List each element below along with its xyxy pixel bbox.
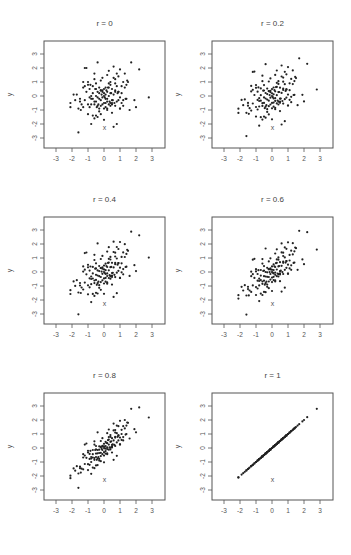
x-tick-label: -1 (85, 507, 91, 514)
y-tick-label: -2 (31, 297, 38, 303)
y-tick-label: 3 (199, 228, 206, 232)
y-tick-label: 3 (31, 228, 38, 232)
x-tick-label: 2 (134, 507, 138, 514)
y-tick-label: -2 (31, 121, 38, 127)
panel-title: r = 0 (44, 19, 165, 28)
plot-frame (212, 41, 333, 148)
x-tick-label: 1 (118, 155, 122, 162)
x-tick-label: -3 (221, 507, 227, 514)
y-axis-label: y (6, 93, 13, 97)
y-axis-label: y (174, 269, 181, 273)
y-tick-label: -2 (199, 297, 206, 303)
x-axis-label: x (212, 300, 333, 307)
y-tick-label: -1 (199, 459, 206, 465)
x-tick-label: 2 (302, 331, 306, 338)
panel-title: r = 0.6 (212, 195, 333, 204)
y-tick-label: -1 (199, 283, 206, 289)
x-tick-label: 2 (302, 155, 306, 162)
x-axis-label: x (212, 476, 333, 483)
y-tick-label: -3 (31, 311, 38, 317)
y-tick-label: 0 (31, 270, 38, 274)
y-tick-label: 1 (199, 256, 206, 260)
x-tick-label: 3 (150, 155, 154, 162)
y-tick-label: -3 (199, 135, 206, 141)
panel-title: r = 1 (212, 371, 333, 380)
x-tick-label: 0 (102, 507, 106, 514)
x-tick-label: -2 (69, 331, 75, 338)
x-tick-label: -1 (253, 331, 259, 338)
scatter-panel-4: -3-2-10123-3-2-10123r = 0.6xy (168, 176, 343, 352)
x-axis-label: x (212, 124, 333, 131)
panel-title: r = 0.2 (212, 19, 333, 28)
x-axis-label: x (44, 300, 165, 307)
x-tick-label: 0 (270, 155, 274, 162)
cut-off-caption (0, 549, 351, 555)
scatter-panel-5: -3-2-10123-3-2-10123r = 0.8xy (0, 352, 175, 528)
y-tick-label: -3 (199, 311, 206, 317)
y-tick-label: 2 (199, 418, 206, 422)
x-tick-label: -3 (53, 331, 59, 338)
x-tick-label: -2 (69, 155, 75, 162)
x-tick-label: -1 (253, 507, 259, 514)
y-tick-label: -3 (31, 135, 38, 141)
x-tick-label: -3 (221, 155, 227, 162)
x-axis-label: x (44, 476, 165, 483)
scatter-panel-6: -3-2-10123-3-2-10123r = 1xy (168, 352, 343, 528)
x-tick-label: 0 (102, 155, 106, 162)
panel-title: r = 0.8 (44, 371, 165, 380)
y-tick-label: 1 (31, 80, 38, 84)
y-tick-label: -1 (199, 107, 206, 113)
y-tick-label: -2 (199, 473, 206, 479)
x-tick-label: -3 (53, 507, 59, 514)
data-points (69, 61, 150, 133)
x-tick-label: 3 (150, 331, 154, 338)
x-tick-label: -2 (237, 155, 243, 162)
x-tick-label: 3 (150, 507, 154, 514)
y-tick-label: -1 (31, 283, 38, 289)
x-tick-label: 1 (286, 331, 290, 338)
x-tick-label: 1 (286, 507, 290, 514)
x-tick-label: -2 (237, 331, 243, 338)
y-tick-label: 3 (199, 404, 206, 408)
plot-frame (44, 217, 165, 324)
y-tick-label: 2 (31, 418, 38, 422)
y-tick-label: 2 (199, 66, 206, 70)
x-tick-label: -3 (221, 331, 227, 338)
y-tick-label: 2 (199, 242, 206, 246)
x-axis-label: x (44, 124, 165, 131)
x-tick-label: -1 (85, 155, 91, 162)
y-axis-label: y (6, 445, 13, 449)
y-axis-label: y (6, 269, 13, 273)
y-tick-label: 2 (31, 66, 38, 70)
y-axis-label: y (174, 445, 181, 449)
y-tick-label: 0 (199, 94, 206, 98)
y-tick-label: 1 (199, 80, 206, 84)
x-tick-label: 1 (118, 331, 122, 338)
y-tick-label: 1 (199, 432, 206, 436)
x-tick-label: 0 (270, 331, 274, 338)
y-tick-label: 0 (31, 94, 38, 98)
x-tick-label: 2 (134, 331, 138, 338)
y-axis-label: y (174, 93, 181, 97)
scatter-panel-3: -3-2-10123-3-2-10123r = 0.4xy (0, 176, 175, 352)
plot-frame (44, 41, 165, 148)
y-tick-label: -2 (199, 121, 206, 127)
scatter-panel-1: -3-2-10123-3-2-10123r = 0xy (0, 0, 175, 176)
y-tick-label: 1 (31, 256, 38, 260)
x-tick-label: -1 (253, 155, 259, 162)
y-tick-label: 3 (31, 404, 38, 408)
y-tick-label: 2 (31, 242, 38, 246)
x-tick-label: -3 (53, 155, 59, 162)
y-tick-label: 0 (31, 446, 38, 450)
x-tick-label: 3 (318, 507, 322, 514)
y-tick-label: 3 (31, 52, 38, 56)
y-tick-label: 0 (199, 446, 206, 450)
y-tick-label: -3 (199, 487, 206, 493)
scatter-panel-2: -3-2-10123-3-2-10123r = 0.2xy (168, 0, 343, 176)
y-tick-label: 3 (199, 52, 206, 56)
y-tick-label: -3 (31, 487, 38, 493)
panel-title: r = 0.4 (44, 195, 165, 204)
x-tick-label: 1 (286, 155, 290, 162)
y-tick-label: -2 (31, 473, 38, 479)
x-tick-label: -1 (85, 331, 91, 338)
